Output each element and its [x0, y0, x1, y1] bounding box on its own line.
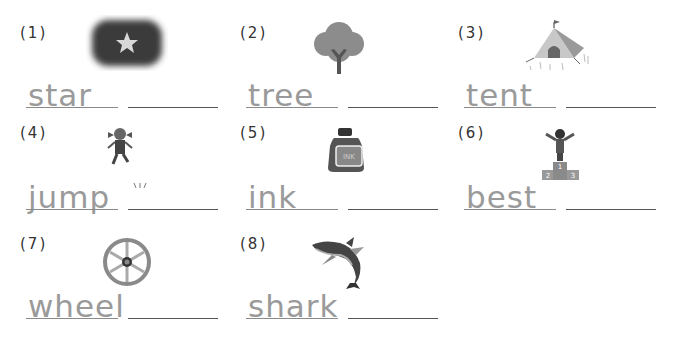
answer-blank[interactable]: [566, 209, 656, 211]
jumping-girl-icon: [100, 126, 140, 172]
item-number: (6): [458, 124, 485, 142]
item-number: (2): [240, 24, 267, 42]
trace-underline: [464, 107, 556, 109]
answer-blank[interactable]: [128, 107, 218, 109]
exercise-item-5: (5) INK ink: [240, 124, 455, 210]
answer-blank[interactable]: [348, 209, 438, 211]
item-number: (1): [20, 24, 47, 42]
answer-blank[interactable]: [348, 318, 438, 320]
trace-word: shark: [246, 279, 338, 319]
exercise-item-3: (3) tent: [458, 24, 673, 108]
exercise-item-7: (7) wheel: [20, 235, 235, 319]
podium-third: 3: [571, 172, 575, 180]
podium-first: 1: [558, 163, 562, 171]
answer-blank[interactable]: [348, 107, 438, 109]
trace-underline: [246, 107, 338, 109]
exercise-item-1: (1) star: [20, 24, 235, 108]
trace-underline: [246, 209, 338, 211]
tent-icon: [522, 14, 594, 72]
trace-underline: [26, 107, 118, 109]
trace-word: star: [26, 68, 118, 108]
item-number: (5): [240, 124, 267, 142]
trace-underline: [246, 318, 338, 320]
motion-marks-icon: [132, 182, 148, 190]
exercise-item-8: (8) shark: [240, 235, 455, 319]
item-number: (8): [240, 235, 267, 253]
trace-underline: [26, 318, 118, 320]
item-number: (7): [20, 235, 47, 253]
answer-blank[interactable]: [128, 318, 218, 320]
ink-label: INK: [343, 153, 355, 161]
exercise-item-2: (2) tree: [240, 24, 455, 108]
trace-word: jump: [26, 170, 118, 210]
trace-word: best: [464, 170, 556, 210]
trace-word: wheel: [26, 279, 118, 319]
trace-word: tree: [246, 68, 338, 108]
exercise-item-6: (6) 1 2 3 best: [458, 124, 673, 210]
trace-underline: [26, 209, 118, 211]
star-cloud-icon: [86, 14, 168, 72]
answer-blank[interactable]: [128, 209, 218, 211]
trace-underline: [464, 209, 556, 211]
trace-word: ink: [246, 170, 338, 210]
item-number: (4): [20, 124, 47, 142]
exercise-item-4: (4) jump: [20, 124, 235, 210]
ink-bottle-icon: INK: [324, 126, 368, 176]
item-number: (3): [458, 24, 485, 42]
trace-word: tent: [464, 68, 556, 108]
answer-blank[interactable]: [566, 107, 656, 109]
